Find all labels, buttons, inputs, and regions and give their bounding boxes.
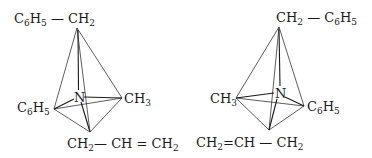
enantiomer-diagram: N C6H5 — CH2 CH3 C6H5 CH2— CH = CH2 <box>0 0 372 158</box>
substituent-left-left: C6H5 <box>17 100 50 117</box>
edge-top-bottom <box>269 27 279 130</box>
edge-left-right <box>236 98 304 106</box>
substituent-right-left: CH3 <box>124 91 151 108</box>
substituent-bottom-right: CH2=CH — CH2 <box>196 135 304 152</box>
n-bonds-right <box>236 29 304 130</box>
nitrogen-label-right: N <box>275 86 286 101</box>
bond-n-top <box>78 30 79 90</box>
substituent-bottom-left: CH2— CH = CH2 <box>67 136 179 153</box>
edge-right-bottom <box>90 98 122 132</box>
edge-top-left <box>236 27 279 98</box>
substituent-left-right: CH3 <box>210 91 237 108</box>
nitrogen-label-left: N <box>74 90 85 105</box>
bond-n-top <box>279 29 280 86</box>
tetrahedron-left-edges <box>54 28 122 132</box>
bond-n-right <box>84 97 122 98</box>
tetrahedron-right-edges <box>236 27 304 130</box>
molecule-left: N C6H5 — CH2 CH3 C6H5 CH2— CH = CH2 <box>14 11 179 153</box>
substituent-right-right: C6H5 <box>307 99 340 116</box>
edge-left-bottom <box>236 98 269 130</box>
molecule-right: N CH2 — C6H5 CH3 C6H5 CH2=CH — CH2 <box>196 10 357 152</box>
bond-n-left <box>236 93 274 98</box>
substituent-top-right: CH2 — C6H5 <box>276 10 357 27</box>
edge-top-right <box>77 28 122 98</box>
substituent-top-left: C6H5 — CH2 <box>14 11 95 28</box>
